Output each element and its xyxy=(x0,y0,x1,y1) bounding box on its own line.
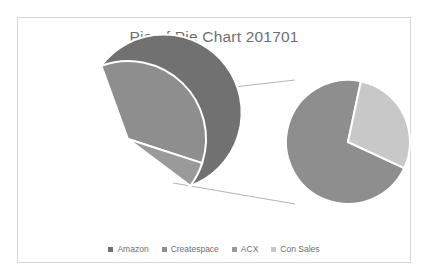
legend-swatch-amazon xyxy=(108,247,113,252)
legend-label-con-sales: Con Sales xyxy=(280,244,319,254)
legend-label-amazon: Amazon xyxy=(117,244,148,254)
legend-item-createspace[interactable]: Createspace xyxy=(162,244,219,254)
legend-swatch-createspace xyxy=(162,247,167,252)
legend-item-con-sales[interactable]: Con Sales xyxy=(271,244,319,254)
pie-of-pie-plot xyxy=(18,18,412,264)
chart-legend: Amazon Createspace ACX Con Sales xyxy=(18,244,410,254)
chart-frame: Pie of Pie Chart 201701 Amazon xyxy=(17,17,411,263)
legend-item-acx[interactable]: ACX xyxy=(232,244,258,254)
legend-label-acx: ACX xyxy=(241,244,258,254)
legend-label-createspace: Createspace xyxy=(171,244,219,254)
secondary-pie xyxy=(286,80,410,204)
legend-swatch-con-sales xyxy=(271,247,276,252)
legend-swatch-acx xyxy=(232,247,237,252)
primary-pie xyxy=(101,35,241,186)
legend-item-amazon[interactable]: Amazon xyxy=(108,244,148,254)
